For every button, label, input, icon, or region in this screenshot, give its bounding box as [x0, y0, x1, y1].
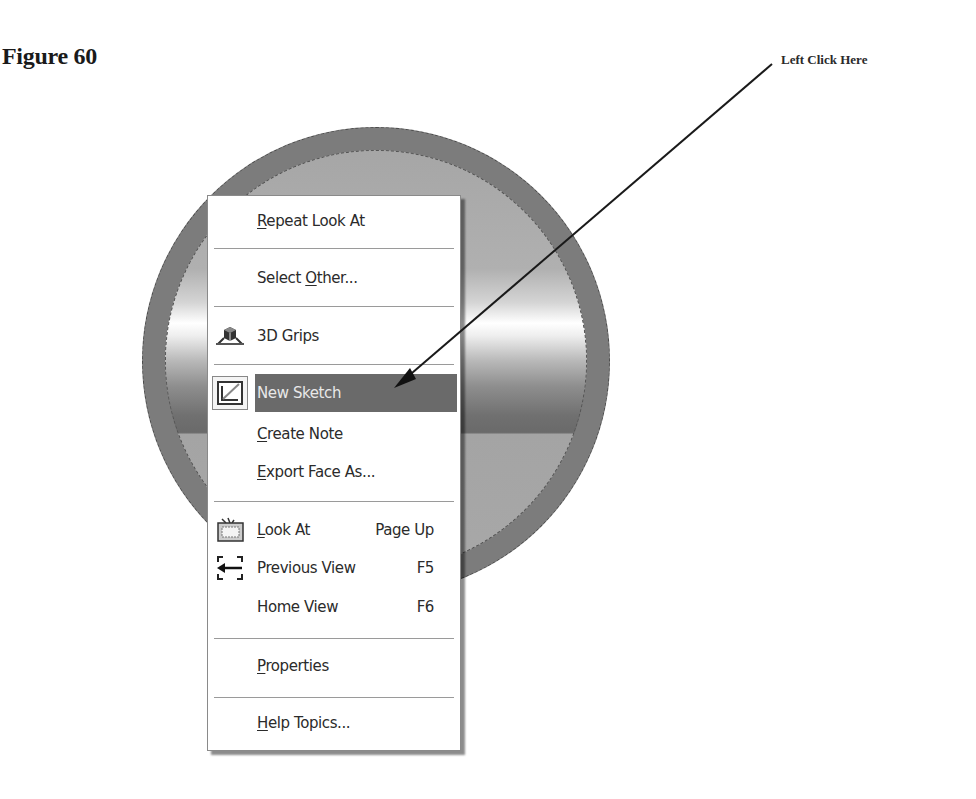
callout-arrow: [0, 0, 976, 799]
